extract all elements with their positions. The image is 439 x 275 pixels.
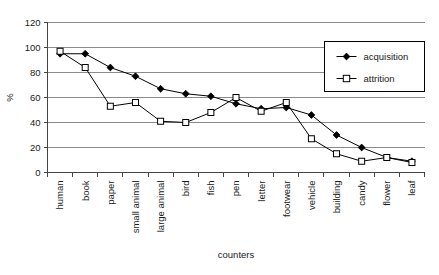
y-tick-label: 40 bbox=[30, 117, 41, 128]
data-point-acquisition-4 bbox=[157, 85, 164, 92]
data-point-attrition-4 bbox=[158, 118, 164, 124]
y-tick-label: 80 bbox=[30, 67, 41, 78]
data-point-attrition-3 bbox=[132, 100, 138, 106]
x-axis-ticks-group bbox=[48, 173, 425, 177]
x-tick-label: paper bbox=[105, 181, 116, 205]
x-tick-label: footwear bbox=[281, 181, 292, 217]
y-tick-label: 120 bbox=[25, 17, 41, 28]
data-point-attrition-11 bbox=[334, 151, 340, 157]
y-axis-title: % bbox=[4, 93, 15, 102]
data-point-attrition-13 bbox=[384, 155, 390, 161]
x-tick-label: large animal bbox=[155, 181, 166, 233]
x-tick-label: building bbox=[331, 181, 342, 214]
legend-label-acquisition: acquisition bbox=[364, 51, 409, 62]
data-point-acquisition-7 bbox=[233, 100, 240, 107]
x-tick-label: bird bbox=[180, 181, 191, 197]
chart-legend: acquisitionattrition bbox=[325, 42, 425, 92]
x-tick-label: flower bbox=[381, 181, 392, 206]
y-tick-label: 20 bbox=[30, 142, 41, 153]
data-point-acquisition-2 bbox=[107, 64, 114, 71]
data-point-attrition-2 bbox=[107, 103, 113, 109]
y-axis-ticks-group: 020406080100120 bbox=[25, 17, 48, 178]
data-point-acquisition-12 bbox=[358, 144, 365, 151]
data-point-acquisition-5 bbox=[182, 90, 189, 97]
data-point-attrition-8 bbox=[258, 108, 264, 114]
x-tick-label: small animal bbox=[130, 181, 141, 234]
x-tick-label: leaf bbox=[406, 180, 417, 196]
data-point-acquisition-1 bbox=[82, 50, 89, 57]
data-point-attrition-14 bbox=[409, 160, 415, 166]
x-axis-labels-group: humanbookpapersmall animallarge animalbi… bbox=[54, 180, 417, 233]
legend-box bbox=[325, 42, 425, 92]
data-point-acquisition-6 bbox=[207, 93, 214, 100]
data-point-attrition-7 bbox=[233, 95, 239, 101]
data-point-attrition-1 bbox=[82, 65, 88, 71]
y-tick-label: 0 bbox=[35, 167, 40, 178]
x-tick-label: letter bbox=[256, 181, 267, 202]
line-chart: 020406080100120 humanbookpapersmall anim… bbox=[0, 0, 439, 275]
x-tick-label: human bbox=[54, 181, 65, 210]
y-tick-label: 60 bbox=[30, 92, 41, 103]
x-tick-label: fish bbox=[205, 181, 216, 196]
x-tick-label: vehicle bbox=[306, 181, 317, 211]
chart-container: 020406080100120 humanbookpapersmall anim… bbox=[0, 0, 439, 275]
data-point-attrition-0 bbox=[57, 48, 63, 54]
x-tick-label: candy bbox=[356, 180, 367, 206]
x-tick-label: pen bbox=[230, 181, 241, 197]
legend-label-attrition: attrition bbox=[364, 73, 395, 84]
y-tick-label: 100 bbox=[25, 42, 41, 53]
data-point-attrition-12 bbox=[359, 158, 365, 164]
legend-marker-attrition bbox=[343, 75, 349, 81]
data-point-attrition-10 bbox=[308, 136, 314, 142]
x-axis-title: counters bbox=[218, 249, 255, 260]
data-point-attrition-9 bbox=[283, 100, 289, 106]
data-point-attrition-6 bbox=[208, 110, 214, 116]
x-tick-label: book bbox=[80, 180, 91, 201]
data-point-acquisition-3 bbox=[132, 73, 139, 80]
data-point-attrition-5 bbox=[183, 120, 189, 126]
